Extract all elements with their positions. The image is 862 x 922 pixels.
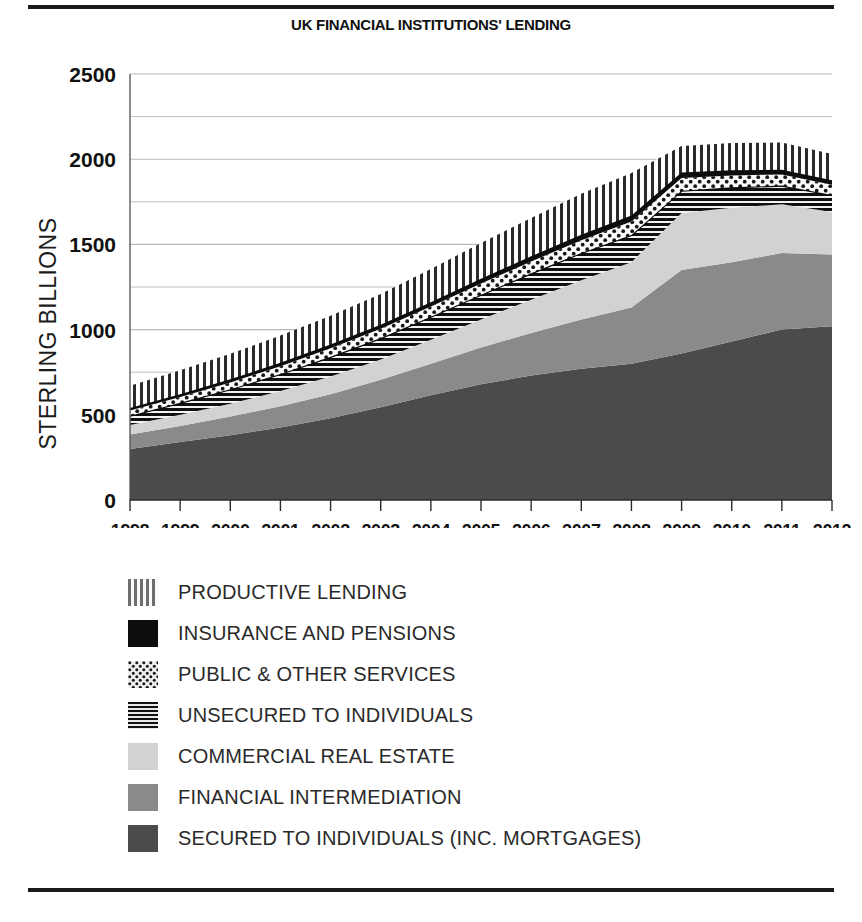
legend-swatch-icon [128, 784, 158, 811]
stacked-area-chart: 0500100015002000250019981999200020012002… [0, 58, 862, 528]
svg-text:2008: 2008 [612, 521, 651, 528]
legend-item-1[interactable]: INSURANCE AND PENSIONS [128, 613, 828, 654]
svg-text:1000: 1000 [69, 319, 116, 342]
svg-text:2010: 2010 [712, 521, 751, 528]
chart-title: UK FINANCIAL INSTITUTIONS' LENDING [0, 16, 862, 33]
svg-text:500: 500 [81, 404, 116, 427]
chart-plot-area: STERLING BILLIONS 0500100015002000250019… [0, 58, 862, 528]
svg-text:1999: 1999 [161, 521, 200, 528]
bottom-rule [28, 888, 834, 892]
legend-swatch-icon [128, 620, 158, 647]
svg-text:2001: 2001 [261, 521, 300, 528]
chart-legend: PRODUCTIVE LENDING INSURANCE AND PENSION… [128, 572, 828, 859]
svg-text:1500: 1500 [69, 233, 116, 256]
legend-swatch-icon [128, 825, 158, 852]
legend-swatch-icon [128, 743, 158, 770]
svg-text:2006: 2006 [512, 521, 551, 528]
legend-item-label: PRODUCTIVE LENDING [178, 581, 407, 604]
svg-text:2012: 2012 [813, 521, 852, 528]
svg-text:2500: 2500 [69, 63, 116, 86]
legend-item-label: UNSECURED TO INDIVIDUALS [178, 704, 473, 727]
svg-text:2003: 2003 [361, 521, 400, 528]
legend-item-label: COMMERCIAL REAL ESTATE [178, 745, 455, 768]
legend-item-0[interactable]: PRODUCTIVE LENDING [128, 572, 828, 613]
legend-item-2[interactable]: PUBLIC & OTHER SERVICES [128, 654, 828, 695]
svg-text:2004: 2004 [412, 521, 451, 528]
legend-item-6[interactable]: SECURED TO INDIVIDUALS (INC. MORTGAGES) [128, 818, 828, 859]
svg-text:2009: 2009 [662, 521, 701, 528]
svg-text:2002: 2002 [311, 521, 350, 528]
top-rule [28, 5, 834, 9]
svg-text:2005: 2005 [462, 521, 501, 528]
svg-text:1998: 1998 [111, 521, 150, 528]
svg-text:2000: 2000 [69, 148, 116, 171]
legend-swatch-icon [128, 579, 158, 606]
legend-item-label: INSURANCE AND PENSIONS [178, 622, 456, 645]
legend-swatch-icon [128, 661, 158, 688]
svg-text:2007: 2007 [562, 521, 601, 528]
svg-text:2011: 2011 [763, 521, 801, 528]
svg-text:2000: 2000 [211, 521, 250, 528]
legend-item-4[interactable]: COMMERCIAL REAL ESTATE [128, 736, 828, 777]
legend-item-label: PUBLIC & OTHER SERVICES [178, 663, 456, 686]
legend-item-label: FINANCIAL INTERMEDIATION [178, 786, 462, 809]
legend-item-3[interactable]: UNSECURED TO INDIVIDUALS [128, 695, 828, 736]
svg-text:0: 0 [104, 489, 116, 512]
y-axis-label: STERLING BILLIONS [35, 144, 62, 524]
legend-item-label: SECURED TO INDIVIDUALS (INC. MORTGAGES) [178, 827, 641, 850]
legend-swatch-icon [128, 702, 158, 729]
legend-item-5[interactable]: FINANCIAL INTERMEDIATION [128, 777, 828, 818]
